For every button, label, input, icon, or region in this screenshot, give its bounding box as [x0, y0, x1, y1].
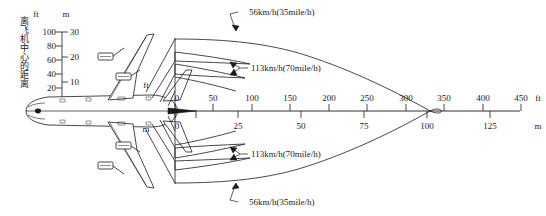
vertical-ft-tick-100: 100: [43, 27, 57, 37]
vertical-ft-tick-40: 40: [47, 69, 57, 79]
leader-arrow-113kmh-lower-a: [230, 147, 237, 153]
contour-113kmh-lower-lobe-a: [175, 158, 250, 170]
vertical-ft-tick-80: 80: [47, 41, 57, 51]
jet-blast-diagram: 离飞机中心的距离 ft m 100 80 60 40 20 0 30: [0, 0, 546, 216]
leader-arrow-113kmh-lower-b: [230, 154, 237, 160]
horizontal-m-tick-75: 75: [360, 121, 370, 131]
horizontal-ft-ticks: [175, 104, 521, 111]
horizontal-ft-tick-400: 400: [476, 93, 490, 103]
horizontal-ft-tick-450: 450: [514, 93, 528, 103]
annotation-upper-outer: 56km/h(35mile/h): [230, 7, 315, 31]
leader-arrow-56kmh-lower: [232, 183, 239, 189]
vertical-ft-unit: ft: [33, 9, 39, 19]
diagram-canvas: ft m 100 80 60 40 20 0 30 20 10: [0, 0, 546, 216]
vertical-m-unit: m: [62, 9, 69, 19]
horizontal-ft-unit-end: ft: [535, 93, 541, 103]
horizontal-ft-tick-50: 50: [209, 93, 219, 103]
horizontal-m-tick-25: 25: [234, 121, 244, 131]
horizontal-m-tick-100: 100: [420, 121, 434, 131]
horizontal-ft-axis-group: ft 0 50 100 150 200 250 300 350: [143, 80, 541, 111]
annotation-lower-outer: 56km/h(35mile/h): [230, 183, 315, 207]
horizontal-ft-tick-350: 350: [437, 93, 451, 103]
horizontal-m-tick-125: 125: [483, 121, 497, 131]
vertical-m-tick-10: 10: [70, 77, 80, 87]
horizontal-ft-tick-250: 250: [360, 93, 374, 103]
horizontal-ft-tick-150: 150: [283, 93, 297, 103]
label-113kmh-lower: 113km/h(70mile/h): [251, 149, 321, 159]
horizontal-m-axis-group: m 0 25 50 75 100 125 m: [142, 111, 541, 134]
origin-m-label: m: [142, 124, 149, 134]
contours-lower: [146, 111, 430, 183]
leader-arrow-56kmh-upper: [232, 25, 239, 31]
vertical-m-tick-20: 20: [70, 52, 80, 62]
vertical-ft-tick-20: 20: [47, 83, 57, 93]
horizontal-m-ticks: [175, 111, 490, 118]
aircraft-engine-lower-outboard: [98, 162, 124, 174]
horizontal-m-tick-50: 50: [297, 121, 307, 131]
leader-arrow-113kmh-upper-b: [230, 69, 237, 75]
vertical-m-tick-30: 30: [70, 27, 80, 37]
contour-113kmh-upper-lobe-a: [175, 52, 250, 64]
horizontal-m-unit-end: m: [534, 121, 541, 131]
label-56kmh-upper: 56km/h(35mile/h): [249, 7, 315, 17]
horizontal-ft-tick-0: 0: [175, 93, 180, 103]
horizontal-ft-tick-100: 100: [245, 93, 259, 103]
horizontal-m-tick-0: 0: [175, 121, 180, 131]
label-56kmh-lower: 56km/h(35mile/h): [249, 197, 315, 207]
horizontal-ft-tick-200: 200: [322, 93, 336, 103]
vertical-ft-tick-60: 60: [47, 55, 57, 65]
leader-arrow-113kmh-upper-a: [230, 62, 237, 68]
aircraft-engine-upper-outboard: [98, 48, 124, 60]
label-113kmh-upper: 113km/h(70mile/h): [251, 63, 321, 73]
